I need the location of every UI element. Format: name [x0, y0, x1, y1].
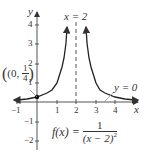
tick-label-x-3: 3	[94, 106, 99, 115]
function-label: f(x) = 1(x − 2)2	[52, 120, 117, 144]
horizontal-asymptote-label: y = 0	[114, 82, 137, 93]
tick-label-x-1: 1	[55, 106, 60, 115]
point-close-paren: )	[29, 65, 34, 82]
point-label: ((0, 14)	[2, 64, 34, 83]
vertical-asymptote-label: x = 2	[64, 11, 87, 22]
point-leader-line	[30, 90, 37, 97]
tick-label-x-4: 4	[113, 106, 118, 115]
y-axis-label: y	[28, 6, 33, 17]
tick-label-y-3: 3	[28, 39, 33, 48]
point-x: (0,	[7, 67, 19, 79]
tick-label-y-neg1: −1	[24, 117, 34, 126]
function-lhs: f(x) =	[52, 125, 80, 139]
tick-label-y-neg2: −2	[24, 136, 34, 145]
tick-label-y-4: 4	[28, 20, 33, 29]
tick-label-x-2: 2	[74, 106, 79, 115]
x-axis-label: x	[134, 104, 139, 115]
tick-label-x-neg1: −1	[11, 106, 21, 115]
function-fraction: 1(x − 2)2	[83, 120, 117, 144]
